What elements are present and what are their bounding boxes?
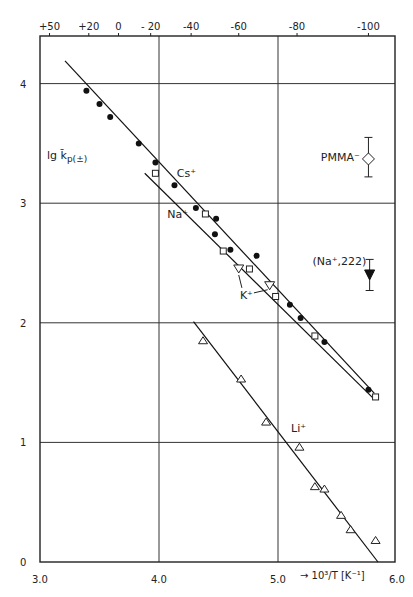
- Cs+-marker: [212, 231, 218, 237]
- Li+-marker: [237, 375, 246, 382]
- Cs+-marker: [321, 339, 327, 345]
- label-(Na+,222): (Na⁺,222): [313, 255, 367, 268]
- Na+-marker: [152, 170, 158, 176]
- Na+-marker: [312, 333, 318, 339]
- label-K+: K⁺: [240, 289, 253, 302]
- Cs+-marker: [97, 101, 103, 107]
- k-leader-line: [239, 275, 242, 288]
- Cs+-marker: [254, 253, 260, 259]
- Li+-marker: [346, 526, 355, 533]
- (Na+,222)-marker: [365, 270, 375, 280]
- label-Na+: Na⁺: [167, 208, 188, 221]
- Na+-marker: [373, 394, 379, 400]
- Cs+-marker: [152, 160, 158, 166]
- K+-marker: [265, 282, 275, 290]
- Cs+-marker: [136, 140, 142, 146]
- x-tick-label: 3.0: [32, 574, 48, 585]
- Cs+-marker: [171, 182, 177, 188]
- x-tick-label: 6.0: [389, 574, 405, 585]
- Cs+-marker: [193, 205, 199, 211]
- Cs+-marker: [365, 387, 371, 393]
- Li+-marker: [295, 443, 304, 450]
- fit-line-Cs+: [65, 61, 374, 393]
- Li+-marker: [337, 511, 346, 518]
- y-tick-label: 2: [20, 318, 26, 329]
- Cs+-marker: [213, 216, 219, 222]
- y-tick-label: 0: [20, 557, 26, 568]
- top-tick-label: -60: [231, 21, 247, 32]
- Cs+-marker: [83, 88, 89, 94]
- top-tick-label: +20: [78, 21, 99, 32]
- Cs+-marker: [298, 315, 304, 321]
- x-axis-title: → 10³/T [K⁻¹]: [300, 570, 365, 581]
- Na+-marker: [246, 266, 252, 272]
- top-tick-label: - 20: [141, 21, 161, 32]
- Cs+-marker: [227, 247, 233, 253]
- fit-lines: [65, 61, 378, 562]
- label-Cs+: Cs⁺: [177, 167, 196, 180]
- y-tick-label: 1: [20, 437, 26, 448]
- x-tick-label: 4.0: [151, 574, 167, 585]
- label-PMMA-: PMMA⁻: [321, 151, 360, 164]
- PMMA--marker: [362, 153, 374, 165]
- y-axis: 01234: [20, 79, 26, 568]
- Na+-marker: [273, 293, 279, 299]
- y-tick-label: 4: [20, 79, 26, 90]
- top-temperature-axis: +50+200- 20-40-60-80-100: [39, 21, 380, 36]
- Na+-marker: [202, 211, 208, 217]
- label-Li+: Li⁺: [291, 422, 306, 435]
- x-tick-label: 5.0: [270, 574, 286, 585]
- Cs+-marker: [287, 302, 293, 308]
- top-tick-label: -40: [183, 21, 199, 32]
- Na+-marker: [220, 248, 226, 254]
- top-tick-label: +50: [39, 21, 60, 32]
- arrhenius-plot: +50+200- 20-40-60-80-100 3.04.05.06.0 01…: [0, 0, 413, 597]
- top-tick-label: 0: [115, 21, 121, 32]
- Cs+-marker: [107, 114, 113, 120]
- Li+-marker: [262, 418, 271, 425]
- top-tick-label: -80: [289, 21, 305, 32]
- grid-lines: [40, 36, 395, 562]
- y-axis-title: lg k̄p(±): [47, 149, 87, 164]
- y-tick-label: 3: [20, 198, 26, 209]
- plot-frame: [40, 36, 395, 562]
- Li+-marker: [371, 536, 380, 543]
- top-tick-label: -100: [357, 21, 380, 32]
